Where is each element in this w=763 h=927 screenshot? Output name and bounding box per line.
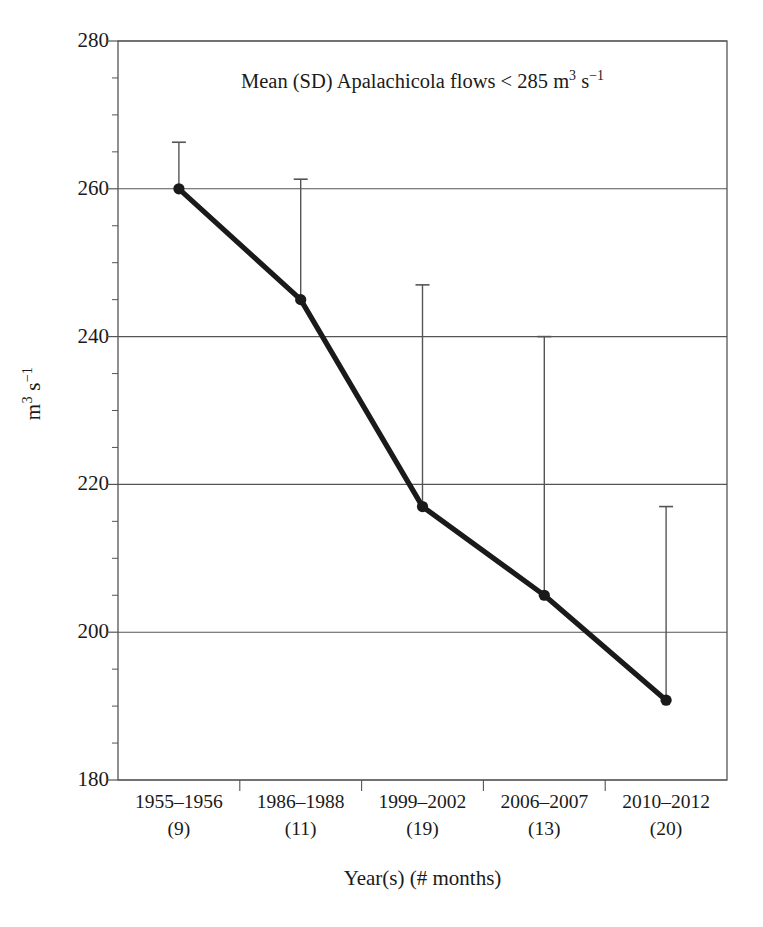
x-axis-tick-label: 1955–1956(9) [118, 789, 240, 859]
x-axis-tick-years: 2010–2012 [605, 789, 727, 816]
data-point-marker [417, 501, 428, 512]
x-axis-tick-label: 1999–2002(19) [362, 789, 484, 859]
error-bar [172, 142, 186, 189]
x-axis-tick-month-count: (11) [240, 816, 362, 843]
x-axis-tick-month-count: (13) [483, 816, 605, 843]
x-axis-tick-label: 1986–1988(11) [240, 789, 362, 859]
data-point-marker [173, 183, 184, 194]
data-point-marker [661, 695, 672, 706]
data-point-marker [539, 590, 550, 601]
error-bars [172, 142, 673, 700]
chart-figure: m3 s−1 280260240220200180 Mean (SD) Apal… [0, 0, 763, 927]
x-axis-tick-years: 1955–1956 [118, 789, 240, 816]
x-axis-tick-years: 1986–1988 [240, 789, 362, 816]
error-bar [659, 507, 673, 701]
x-axis-tick-month-count: (20) [605, 816, 727, 843]
data-point-marker [295, 294, 306, 305]
x-axis-tick-label: 2006–2007(13) [483, 789, 605, 859]
error-bar [416, 285, 430, 507]
x-axis-tick-month-count: (9) [118, 816, 240, 843]
error-bar [537, 337, 551, 596]
x-axis-title: Year(s) (# months) [118, 866, 727, 891]
y-axis-minor-ticks [112, 78, 118, 743]
error-bar [294, 179, 308, 299]
x-axis-tick-labels: 1955–1956(9)1986–1988(11)1999–2002(19)20… [118, 789, 727, 859]
x-axis-tick-label: 2010–2012(20) [605, 789, 727, 859]
x-axis-tick-years: 1999–2002 [362, 789, 484, 816]
plot-area [0, 0, 763, 927]
x-axis-tick-month-count: (19) [362, 816, 484, 843]
x-axis-tick-years: 2006–2007 [483, 789, 605, 816]
